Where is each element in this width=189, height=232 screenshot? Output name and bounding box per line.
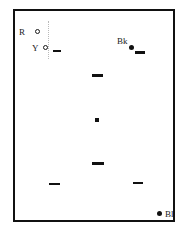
marker-bl-dot [157, 211, 162, 216]
marker-y-open-circle [43, 45, 48, 50]
marker-r-open-circle [35, 29, 40, 34]
label-r: R [19, 28, 25, 37]
label-bk: Bk [117, 37, 128, 46]
marker-center-square [95, 118, 99, 122]
marker-mid-lower-dash [92, 162, 104, 165]
figure-root: R Y Bk Bl [0, 0, 189, 232]
marker-y-dash [53, 50, 61, 52]
marker-bottom-right-dash [133, 182, 143, 184]
plot-frame: R Y Bk Bl [13, 9, 175, 222]
label-y: Y [32, 44, 39, 53]
guide-vertical-dotted-line [48, 21, 49, 59]
marker-bk-dash [135, 51, 145, 54]
label-bl: Bl [165, 210, 174, 219]
marker-bottom-left-dash [49, 183, 60, 185]
marker-mid-upper-dash [92, 74, 103, 77]
marker-bk-dot [129, 45, 134, 50]
